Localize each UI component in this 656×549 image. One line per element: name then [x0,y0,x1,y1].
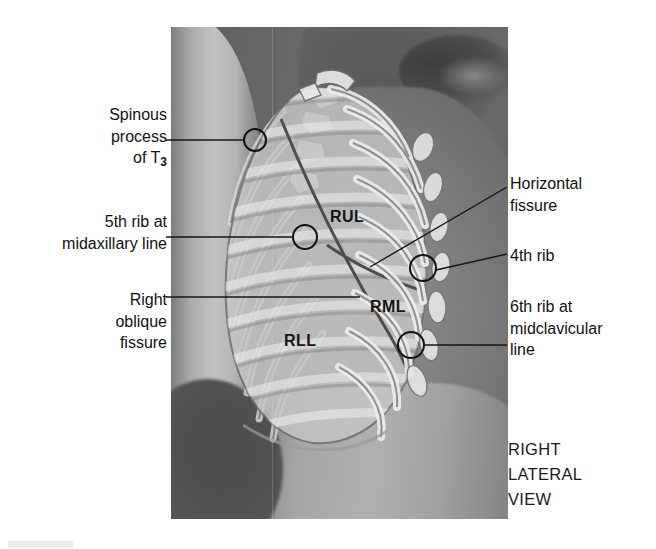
view-caption-line: RIGHT [508,437,582,462]
callout-line: of T3 [109,147,167,171]
callout-line: 6th rib at [510,296,602,318]
view-caption-line: LATERAL [508,462,582,487]
subscript-3: 3 [160,155,167,169]
anatomy-figure: RUL RML RLL [0,0,656,549]
view-caption-line: VIEW [508,487,582,512]
rib-cage-and-lung-overlay [171,27,508,519]
view-caption: RIGHT LATERAL VIEW [508,437,582,512]
callout-line: 4th rib [510,245,554,267]
lobe-label-rll: RLL [284,332,316,350]
thorax-photograph: RUL RML RLL [171,27,508,519]
lobe-label-rul: RUL [330,208,364,226]
lobe-label-rml: RML [370,298,406,316]
callout-horizontal-fissure: Horizontal fissure [510,173,582,216]
registration-bar [8,541,73,548]
callout-spinous-process: Spinous process of T3 [109,104,167,171]
callout-line: fissure [510,195,582,217]
callout-line: process [109,126,167,148]
callout-sixth-rib: 6th rib at midclavicular line [510,296,602,361]
callout-line: Right [115,289,167,311]
callout-line: midaxillary line [62,233,167,255]
callout-line: oblique [115,311,167,333]
callout-line: fissure [115,332,167,354]
callout-fifth-rib: 5th rib at midaxillary line [62,211,167,254]
callout-right-oblique-fissure: Right oblique fissure [115,289,167,354]
callout-line: 5th rib at [62,211,167,233]
callout-fourth-rib: 4th rib [510,245,554,267]
callout-line: line [510,339,602,361]
callout-line: midclavicular [510,318,602,340]
callout-line: Horizontal [510,173,582,195]
callout-line: Spinous [109,104,167,126]
callout-line-text: of T [133,149,160,166]
